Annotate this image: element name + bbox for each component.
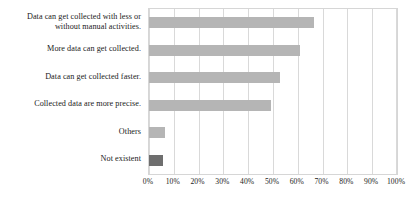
category-label: Not existent — [0, 154, 141, 164]
category-label-line: Others — [0, 127, 141, 137]
category-label-line: Data can get collected with less or — [0, 12, 141, 22]
x-axis-tick-labels: 0%10%20%30%40%50%60%70%80%90%100% — [148, 177, 396, 191]
x-axis-tick-label: 20% — [190, 177, 204, 187]
bar — [149, 100, 271, 111]
bar — [149, 17, 314, 28]
category-axis-labels: Data can get collected with less orwitho… — [0, 8, 145, 173]
category-label-line: without manual activities. — [0, 22, 141, 32]
category-label: Others — [0, 127, 141, 137]
bar — [149, 127, 165, 138]
plot-area — [148, 8, 398, 175]
category-label: Collected data are more precise. — [0, 99, 141, 109]
x-axis-tick-label: 60% — [290, 177, 304, 187]
x-axis-tick-label: 100% — [387, 177, 405, 187]
category-label: More data can get collected. — [0, 44, 141, 54]
bar — [149, 45, 300, 56]
bar-chart: Data can get collected with less orwitho… — [0, 0, 415, 212]
category-label: Data can get collected faster. — [0, 72, 141, 82]
x-axis-tick-label: 50% — [265, 177, 279, 187]
x-axis-tick-label: 10% — [166, 177, 180, 187]
x-axis-tick-label: 70% — [314, 177, 328, 187]
category-label-line: Data can get collected faster. — [0, 72, 141, 82]
category-label-line: Not existent — [0, 154, 141, 164]
bars-layer — [149, 9, 397, 174]
category-label-line: Collected data are more precise. — [0, 99, 141, 109]
category-label: Data can get collected with less orwitho… — [0, 12, 141, 32]
x-axis-tick-label: 80% — [339, 177, 353, 187]
category-label-line: More data can get collected. — [0, 44, 141, 54]
x-axis-tick-label: 90% — [364, 177, 378, 187]
bar — [149, 155, 163, 166]
bar — [149, 72, 280, 83]
x-axis-tick-label: 30% — [215, 177, 229, 187]
x-axis-tick-label: 40% — [240, 177, 254, 187]
x-axis-tick-label: 0% — [143, 177, 153, 187]
